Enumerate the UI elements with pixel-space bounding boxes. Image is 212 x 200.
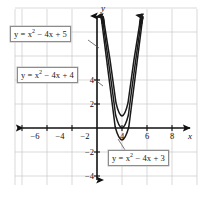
x-tick-label--2: −2 bbox=[78, 131, 92, 141]
x-axis-label: x bbox=[188, 131, 192, 141]
y-tick-label-4: 4 bbox=[84, 75, 94, 85]
equation-callout-c3: y = x2 − 4x + 3 bbox=[108, 150, 169, 166]
x-tick-label-4: 4 bbox=[117, 131, 127, 141]
y-tick-label--4: −4 bbox=[80, 171, 94, 181]
x-tick-label-6: 6 bbox=[142, 131, 152, 141]
equation-callout-c5: y = x2 − 4x + 5 bbox=[10, 26, 71, 42]
x-tick-label--4: −4 bbox=[53, 131, 67, 141]
x-tick-label--6: −6 bbox=[28, 131, 42, 141]
y-tick-label--2: −2 bbox=[80, 147, 94, 157]
equation-callout-c4: y = x2 − 4x + 4 bbox=[17, 67, 78, 83]
y-axis-label: y bbox=[101, 3, 105, 13]
parabola-family-figure: y x −6 −4 −2 4 6 8 4 2 −2 −4 y = x2 − 4x… bbox=[0, 0, 212, 200]
y-tick-label-2: 2 bbox=[84, 99, 94, 109]
x-tick-label-8: 8 bbox=[167, 131, 177, 141]
